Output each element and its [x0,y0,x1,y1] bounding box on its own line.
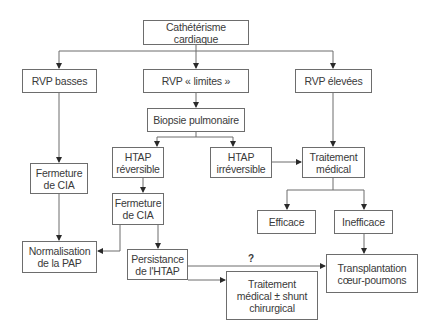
node-label: HTAP irréversible [217,151,266,175]
node-label: Efficace [269,216,305,228]
node-rvp-elevees: RVP élevées [295,69,372,93]
node-htap-irreversible: HTAP irréversible [210,147,272,178]
node-fermeture-cia-left: Fermeture de CIA [30,163,88,194]
edge-label-question: ? [248,253,254,264]
node-rvp-limites: RVP « limites » [143,69,249,93]
node-label: Transplantation cœur-poumons [338,262,407,286]
node-label: Fermeture de CIA [115,197,162,221]
node-label: Biopsie pulmonaire [153,114,239,126]
node-inefficace: Inefficace [334,210,393,234]
node-label: Cathétérisme cardiaque [144,21,248,45]
node-htap-reversible: HTAP réversible [112,147,164,178]
node-rvp-basses: RVP basses [22,69,97,93]
node-normalisation-pap: Normalisation de la PAP [22,241,97,273]
node-traitement-shunt: Traitement médical ± shunt chirurgical [226,271,318,320]
node-transplantation-coeur-poumons: Transplantation cœur-poumons [326,254,418,293]
node-label: Traitement médical [310,151,358,175]
node-traitement-medical: Traitement médical [302,147,365,178]
node-fermeture-cia-center: Fermeture de CIA [112,193,164,225]
node-persistance-htap: Persistance de l'HTAP [127,249,188,280]
node-efficace: Efficace [257,210,316,234]
node-label: RVP élevées [304,75,362,87]
node-label: HTAP réversible [116,151,160,175]
node-label: RVP basses [32,75,87,87]
node-label: RVP « limites » [162,75,230,87]
node-label: Inefficace [342,216,385,228]
node-label: Traitement médical ± shunt chirurgical [237,278,307,314]
node-label: Fermeture de CIA [36,167,83,191]
node-label: Normalisation de la PAP [29,245,91,269]
node-biopsie-pulmonaire: Biopsie pulmonaire [147,108,245,132]
node-catheterisme-cardiaque: Cathétérisme cardiaque [143,20,249,45]
node-label: Persistance de l'HTAP [131,253,184,277]
